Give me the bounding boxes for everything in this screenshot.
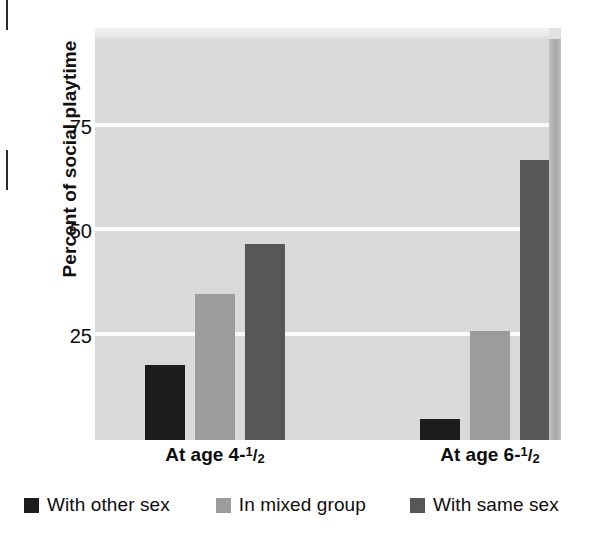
y-tick-label-75: 75 xyxy=(70,115,92,138)
chart-legend: With other sexIn mixed groupWith same se… xyxy=(24,490,599,520)
y-axis-tick-labels: 755025 xyxy=(52,0,92,533)
gridline-75 xyxy=(95,123,549,127)
bar-g1-s1 xyxy=(145,365,185,440)
x-group-label-text-2: At age 6- xyxy=(440,444,520,465)
x-group-label-1: At age 4-1/2 xyxy=(165,444,264,466)
bar-chart-figure: Percent of social playtime 755025 At age… xyxy=(0,0,611,533)
legend-item-1[interactable]: With other sex xyxy=(24,494,170,516)
x-group-label-2: At age 6-1/2 xyxy=(440,444,539,466)
bar-g1-s3 xyxy=(245,244,285,440)
legend-label-1: With other sex xyxy=(47,494,170,516)
bar-g1-s2 xyxy=(195,294,235,440)
legend-swatch-icon-1 xyxy=(24,498,39,513)
legend-item-3[interactable]: With same sex xyxy=(410,494,559,516)
bar-g2-s3 xyxy=(520,160,549,440)
plot-bevel-corner xyxy=(549,28,561,39)
legend-item-2[interactable]: In mixed group xyxy=(216,494,366,516)
x-group-label-fraction-2: 1/2 xyxy=(521,444,540,465)
plot-bevel-top xyxy=(95,28,561,39)
plot-bevel-right xyxy=(549,28,561,440)
x-group-label-text-1: At age 4- xyxy=(165,444,245,465)
plot-block-3d xyxy=(95,28,561,440)
x-group-label-fraction-1: 1/2 xyxy=(246,444,265,465)
legend-swatch-icon-3 xyxy=(410,498,425,513)
legend-swatch-icon-2 xyxy=(216,498,231,513)
bar-g2-s2 xyxy=(470,331,510,440)
y-tick-label-50: 50 xyxy=(70,220,92,243)
x-axis-group-labels: At age 4-1/2At age 6-1/2 xyxy=(95,444,561,478)
fraction-denominator-1: 2 xyxy=(257,451,264,466)
legend-label-3: With same sex xyxy=(433,494,559,516)
y-tick-label-25: 25 xyxy=(70,324,92,347)
bar-g2-s1 xyxy=(420,419,460,440)
gridline-50 xyxy=(95,227,549,231)
plot-area xyxy=(95,39,549,440)
legend-label-2: In mixed group xyxy=(239,494,366,516)
fraction-denominator-2: 2 xyxy=(532,451,539,466)
